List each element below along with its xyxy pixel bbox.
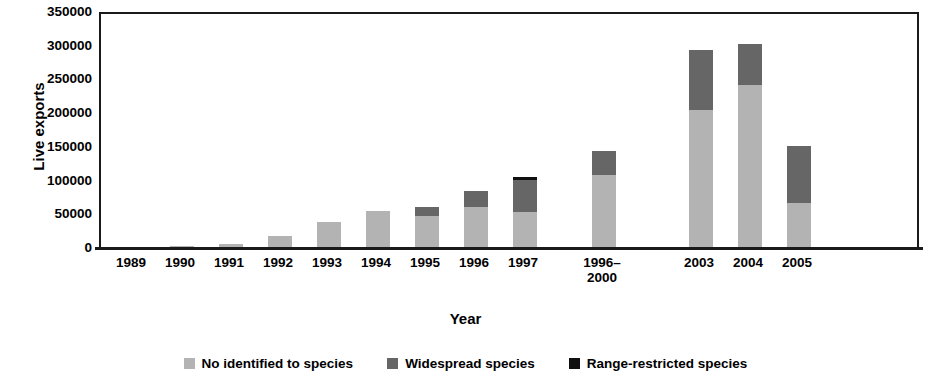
legend-item[interactable]: No identified to species — [184, 357, 354, 371]
legend-item[interactable]: Range-restricted species — [569, 357, 748, 371]
y-tick-label: 300000 — [0, 39, 92, 53]
y-axis-tick-labels: 0500001000001500002000002500003000003500… — [0, 0, 92, 260]
x-tick-label: 1996– 2000 — [557, 255, 647, 285]
y-tick-label: 150000 — [0, 140, 92, 154]
bar-segment — [513, 180, 537, 212]
legend-swatch-icon — [184, 358, 195, 369]
bar-segment — [464, 207, 488, 248]
legend-swatch-icon — [387, 358, 398, 369]
legend-label: Widespread species — [405, 357, 535, 371]
bar-group[interactable] — [513, 177, 537, 248]
bar-segment — [366, 211, 390, 248]
x-tick-label: 1997 — [478, 255, 568, 270]
bar-group[interactable] — [592, 151, 616, 248]
bar-group[interactable] — [738, 44, 762, 248]
bar-segment — [513, 212, 537, 248]
bar-segment — [317, 222, 341, 248]
bar-group[interactable] — [366, 211, 390, 248]
y-tick-label: 200000 — [0, 106, 92, 120]
y-tick-label: 100000 — [0, 174, 92, 188]
x-tick-label: 2005 — [752, 255, 842, 270]
bar-group[interactable] — [317, 222, 341, 248]
bar-group[interactable] — [415, 207, 439, 248]
x-axis-tick-labels: 1989199019911992199319941995199619971996… — [0, 255, 931, 300]
bar-segment — [787, 146, 811, 203]
bar-segment — [592, 151, 616, 175]
bar-segment — [738, 85, 762, 248]
y-tick-label: 250000 — [0, 73, 92, 87]
bar-segment — [592, 175, 616, 248]
legend-label: Range-restricted species — [587, 357, 748, 371]
bar-group[interactable] — [787, 146, 811, 248]
bar-segment — [689, 110, 713, 248]
bar-segment — [415, 216, 439, 248]
x-axis-title: Year — [0, 310, 931, 327]
y-tick-label: 0 — [0, 241, 92, 255]
bar-group[interactable] — [689, 50, 713, 248]
bar-segment — [787, 203, 811, 248]
plot-area — [99, 12, 919, 248]
legend-item[interactable]: Widespread species — [387, 357, 535, 371]
chart-figure: Live exports 050000100000150000200000250… — [0, 0, 931, 381]
x-axis-line — [95, 247, 923, 250]
y-tick-label: 50000 — [0, 208, 92, 222]
bar-group[interactable] — [464, 191, 488, 248]
legend-swatch-icon — [569, 358, 580, 369]
bar-segment — [738, 44, 762, 84]
bar-segment — [464, 191, 488, 207]
legend-label: No identified to species — [202, 357, 354, 371]
chart-legend: No identified to speciesWidespread speci… — [0, 357, 931, 371]
y-tick-label: 350000 — [0, 5, 92, 19]
bar-segment — [689, 50, 713, 110]
bar-segment — [415, 207, 439, 216]
